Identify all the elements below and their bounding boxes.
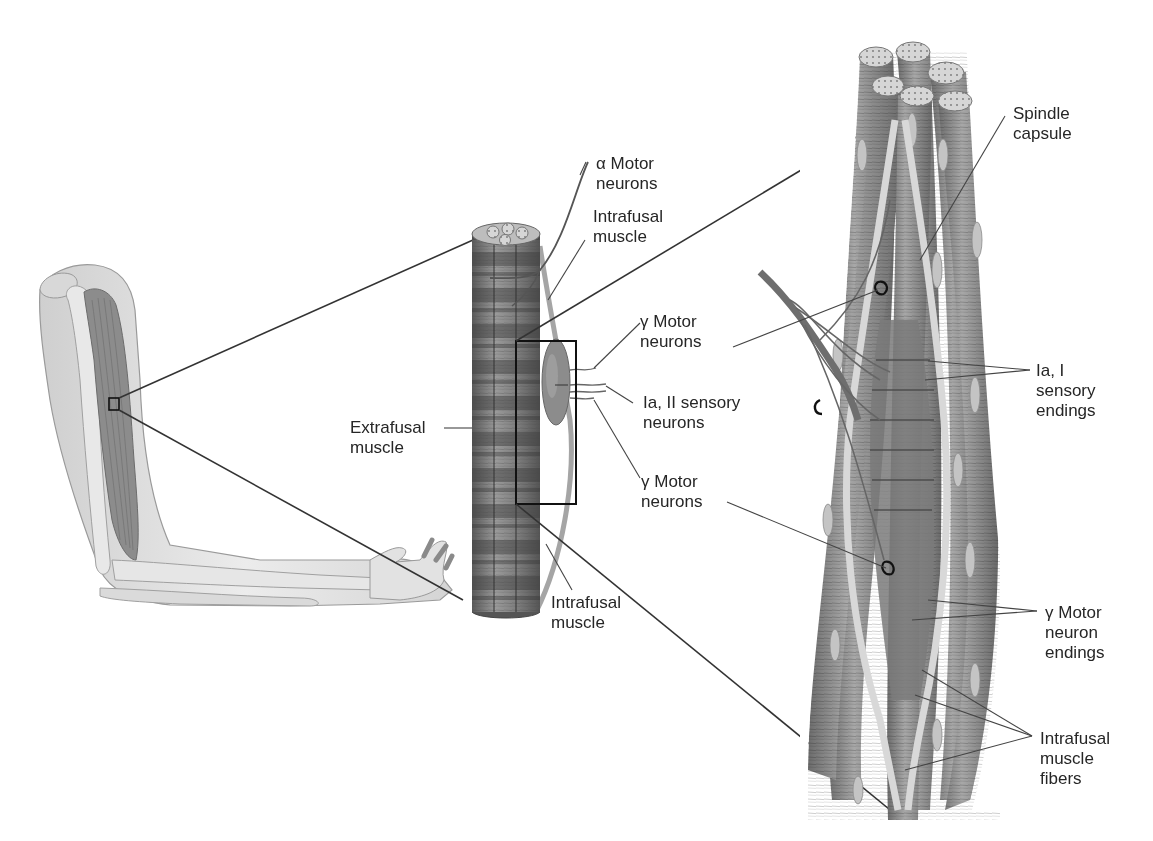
label-gamma-motor-neurons-upper: γ Motor neurons	[640, 312, 701, 352]
label-intrafusal-muscle-bottom: Intrafusal muscle	[551, 593, 621, 633]
label-alpha-motor-neurons: α Motor neurons	[596, 154, 657, 194]
spindle-detail	[760, 40, 1005, 820]
label-intrafusal-muscle-fibers: Intrafusal muscle fibers	[1040, 729, 1110, 789]
label-ia-ii-sensory-neurons: Ia, II sensory neurons	[643, 393, 740, 433]
label-intrafusal-muscle-top: Intrafusal muscle	[593, 207, 663, 247]
label-gamma-motor-neuron-endings: γ Motor neuron endings	[1045, 603, 1105, 663]
muscle-spindle-diagram: α Motor neurons Intrafusal muscle γ Moto…	[0, 0, 1153, 841]
label-ia-i-sensory-endings: Ia, I sensory endings	[1036, 361, 1096, 421]
muscle-bundle	[472, 162, 606, 618]
label-gamma-motor-neurons-lower: γ Motor neurons	[641, 472, 702, 512]
label-extrafusal-muscle: Extrafusal muscle	[350, 418, 426, 458]
diagram-canvas	[0, 0, 1153, 841]
label-spindle-capsule: Spindle capsule	[1013, 104, 1072, 144]
